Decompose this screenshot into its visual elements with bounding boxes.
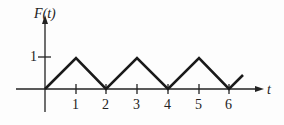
y-tick-label-1: 1 bbox=[30, 50, 37, 64]
x-tick-label-2: 2 bbox=[102, 98, 109, 112]
triangle-wave-figure: F(t) t 1 1 2 3 4 5 6 bbox=[0, 0, 284, 125]
x-tick-label-3: 3 bbox=[133, 98, 140, 112]
triangle-wave-line bbox=[45, 58, 243, 89]
x-tick-label-1: 1 bbox=[72, 98, 79, 112]
x-axis-label: t bbox=[267, 83, 271, 97]
y-axis-label: F(t) bbox=[34, 7, 56, 21]
x-tick-label-4: 4 bbox=[164, 98, 171, 112]
x-tick-label-6: 6 bbox=[225, 98, 232, 112]
x-axis-arrow-icon bbox=[255, 86, 264, 92]
x-tick-label-5: 5 bbox=[195, 98, 202, 112]
